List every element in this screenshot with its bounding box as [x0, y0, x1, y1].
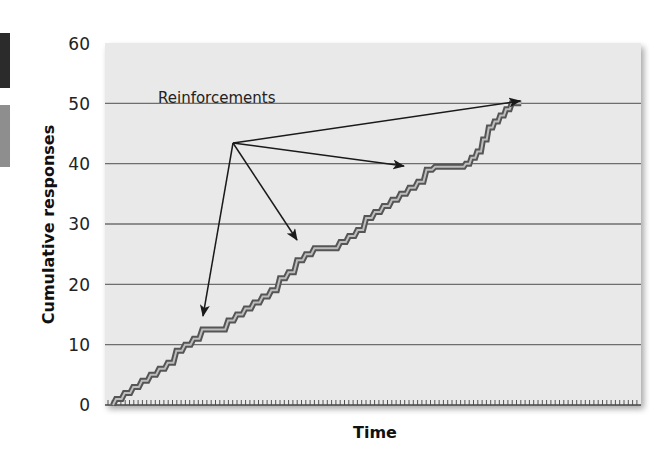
y-tick-60: 60	[50, 36, 90, 53]
y-tick-10: 10	[50, 337, 90, 354]
cumulative-record-chart	[0, 0, 650, 473]
y-tick-0: 0	[50, 397, 90, 414]
reinforcements-annotation: Reinforcements	[158, 89, 275, 107]
y-axis-label: Cumulative responses	[39, 125, 58, 325]
x-axis-label: Time	[300, 423, 450, 442]
y-tick-50: 50	[50, 96, 90, 113]
